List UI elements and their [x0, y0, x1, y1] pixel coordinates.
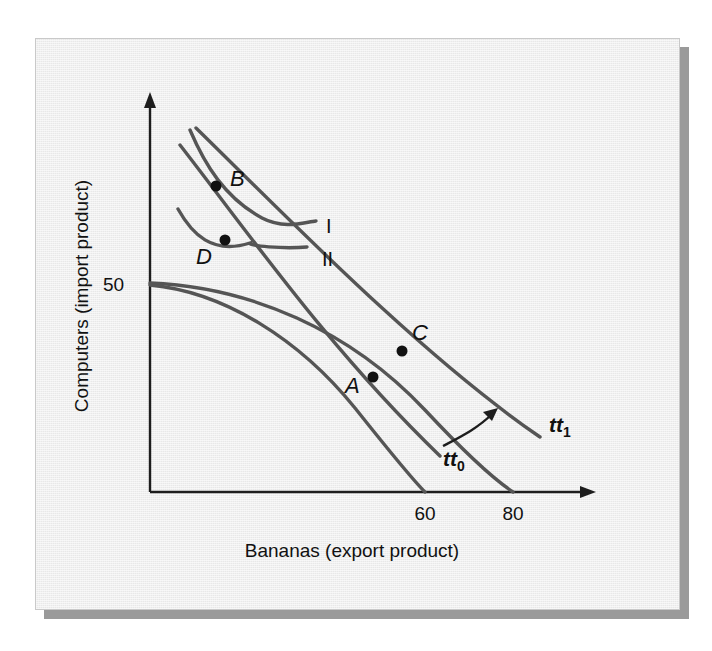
ticks-group: 50 60 80	[103, 274, 524, 524]
tt0-label-subscript: 0	[457, 458, 465, 474]
ppf-inner-curve	[150, 285, 425, 492]
curve-label-I: I	[326, 215, 332, 237]
x-axis-arrowhead	[580, 486, 596, 498]
point-label-B: B	[230, 166, 245, 191]
y-axis-arrowhead	[144, 92, 156, 108]
point-B-dot	[211, 181, 222, 192]
tt1-label-subscript: 1	[563, 424, 571, 440]
point-label-D: D	[196, 244, 212, 269]
indifference-curve-I	[190, 130, 316, 225]
tt1-line	[196, 128, 540, 437]
tt1-label: tt1	[549, 413, 571, 440]
axis-titles-group: Computers (import product) Bananas (expo…	[71, 180, 459, 561]
tt-labels-group: tt1 tt0	[443, 408, 571, 474]
x-tick-label-80: 80	[502, 503, 523, 524]
point-C-dot	[397, 346, 408, 357]
x-tick-label-60: 60	[414, 503, 435, 524]
point-D-dot	[220, 235, 231, 246]
figure-root: B D C A I II tt1 tt0 50 60 80	[0, 0, 712, 651]
tt0-label: tt0	[443, 447, 465, 474]
x-axis-title: Bananas (export product)	[245, 540, 459, 561]
y-axis-title: Computers (import product)	[71, 180, 92, 412]
point-A-dot	[368, 372, 379, 383]
data-points-group	[211, 181, 408, 383]
tt0-label-base: tt	[443, 447, 458, 470]
curve-labels-group: I II	[322, 215, 333, 270]
tt1-label-base: tt	[549, 413, 564, 436]
y-tick-label-50: 50	[103, 274, 124, 295]
curve-label-II: II	[322, 248, 333, 270]
tt0-line	[180, 145, 440, 456]
point-label-A: A	[343, 373, 360, 398]
point-label-C: C	[412, 320, 428, 345]
shift-arrow-curve	[443, 414, 492, 446]
economics-diagram: B D C A I II tt1 tt0 50 60 80	[0, 0, 712, 651]
